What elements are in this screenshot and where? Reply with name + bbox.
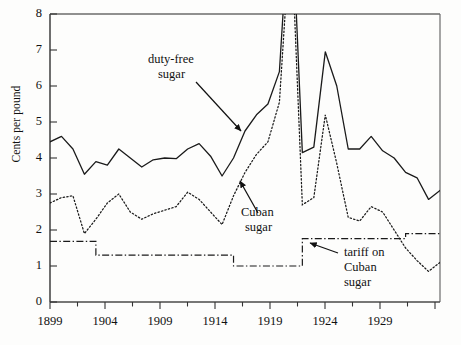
- x-tick-label-1929: 1929: [355, 314, 405, 328]
- x-tick-label-1904: 1904: [80, 314, 130, 328]
- y-tick-label-5: 5: [20, 115, 42, 128]
- y-tick-label-0: 0: [20, 295, 42, 308]
- y-axis-ticks: [50, 14, 57, 302]
- x-tick-label-1909: 1909: [135, 314, 185, 328]
- annotation-tariff-line3: sugar: [344, 275, 384, 290]
- annotation-duty-free-sugar-line1: duty-free: [148, 52, 194, 66]
- y-tick-label-1: 1: [20, 259, 42, 272]
- annotation-cuban-sugar-line1: Cuban: [241, 205, 274, 219]
- y-tick-label-6: 6: [20, 79, 42, 92]
- y-tick-label-3: 3: [20, 187, 42, 200]
- series-duty-free-sugar: [50, 0, 440, 199]
- x-axis-ticks: [50, 302, 435, 309]
- y-tick-label-7: 7: [20, 43, 42, 56]
- chart-plot-area: [0, 0, 461, 345]
- annotation-cuban-sugar-line2: sugar: [241, 220, 274, 235]
- x-tick-label-1899: 1899: [25, 314, 75, 328]
- arrow-duty-free-sugar: [196, 82, 241, 131]
- annotation-duty-free-sugar: duty-free sugar: [148, 52, 194, 82]
- x-tick-label-1919: 1919: [245, 314, 295, 328]
- annotation-tariff-line2: Cuban: [344, 260, 384, 275]
- annotation-tariff-on-cuban-sugar: tariff on Cuban sugar: [344, 245, 384, 290]
- y-tick-label-2: 2: [20, 223, 42, 236]
- annotation-cuban-sugar: Cuban sugar: [241, 205, 274, 235]
- x-tick-label-1914: 1914: [190, 314, 240, 328]
- annotation-duty-free-sugar-line2: sugar: [148, 67, 194, 82]
- y-tick-label-4: 4: [20, 151, 42, 164]
- arrow-tariff-on-cuban-sugar: [310, 243, 338, 253]
- y-tick-label-8: 8: [20, 7, 42, 20]
- chart-figure: Cents per pound 8 7 6 5 4 3 2 1 0 1899 1…: [0, 0, 461, 345]
- x-tick-label-1924: 1924: [300, 314, 350, 328]
- annotation-tariff-line1: tariff on: [344, 245, 384, 259]
